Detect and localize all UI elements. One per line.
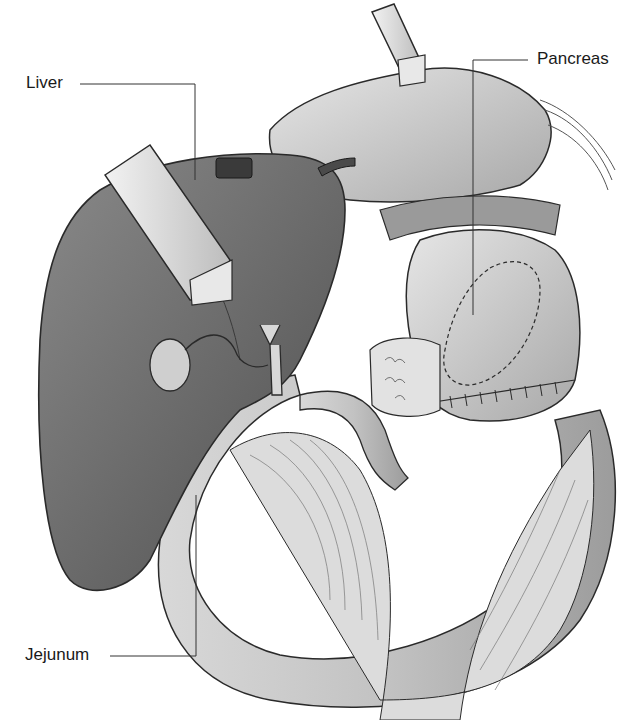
retractor-right	[372, 4, 425, 86]
label-jejunum: Jejunum	[25, 645, 89, 665]
pancreatic-stump	[370, 338, 440, 416]
anatomy-illustration: Liver Pancreas Jejunum	[0, 0, 638, 720]
label-pancreas: Pancreas	[537, 49, 609, 69]
label-liver: Liver	[26, 73, 63, 93]
vena-cava	[216, 158, 252, 178]
surgical-diagram	[0, 0, 638, 720]
